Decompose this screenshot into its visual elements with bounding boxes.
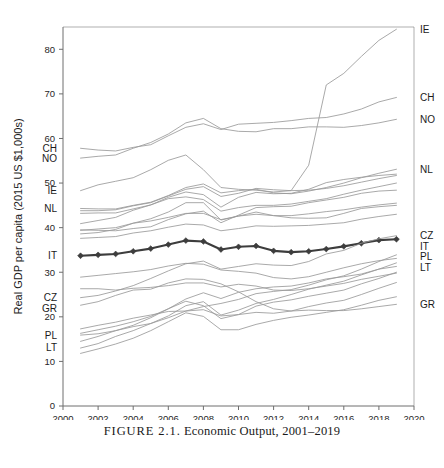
figure-caption: FIGURE 2.1. Economic Output, 2001–2019 [0,424,444,439]
series-marker-it [78,253,84,259]
series-label-right-ch: CH [420,92,434,103]
series-line-ie [81,29,397,192]
x-tick-label: 2002 [88,413,109,420]
x-tick-label: 2010 [228,413,249,420]
series-label-left-gr: GR [42,303,57,314]
y-tick-label: 10 [44,356,55,367]
y-tick-label: 80 [44,44,55,55]
series-label-right-pl: PL [420,251,433,262]
series-marker-it [113,251,119,257]
x-tick-label: 2012 [263,413,284,420]
x-tick-label: 2014 [298,413,319,420]
series-label-right-cz: CZ [420,230,433,241]
series-label-right-gr: GR [420,299,435,310]
series-label-right-nl: NL [420,164,433,175]
series-marker-it [306,248,312,254]
y-tick-label: 40 [44,222,55,233]
series-line-fr [81,214,397,238]
y-tick-label: 30 [44,267,55,278]
x-tick-label: 2006 [158,413,179,420]
series-marker-it [394,236,400,242]
series-marker-it [148,246,154,252]
series-label-right-it: IT [420,241,429,252]
series-marker-it [165,242,171,248]
figure-root: 0102030405060708020002002200420062008201… [0,0,444,468]
series-marker-it [323,246,329,252]
series-label-right-lt: LT [420,262,431,273]
x-tick-label: 2004 [123,413,144,420]
y-tick-label: 70 [44,88,55,99]
y-axis-title: Real GDP per capita (2015 US $1,000s) [12,118,24,314]
series-line-lv [81,297,397,354]
series-marker-it [95,252,101,258]
figure-number: FIGURE 2.1. [104,424,181,438]
series-marker-it [253,243,259,249]
series-line-ch [81,97,397,151]
x-tick-label: 2018 [368,413,389,420]
series-line-gr [81,279,397,311]
series-marker-it [288,249,294,255]
series-label-right-no: NO [420,114,435,125]
series-line-sk [81,266,397,333]
series-marker-it [271,248,277,254]
series-label-left-it: IT [48,250,57,261]
series-label-left-lt: LT [46,342,57,353]
series-label-left-nl: NL [44,203,57,214]
line-chart: 0102030405060708020002002200420062008201… [0,0,444,420]
figure-caption-text: Economic Output, 2001–2019 [184,424,340,438]
series-marker-it [341,243,347,249]
chart-plot-area: 0102030405060708020002002200420062008201… [0,0,444,420]
x-tick-label: 2000 [52,413,73,420]
series-label-left-cz: CZ [44,292,57,303]
series-label-left-no: NO [42,153,57,164]
x-tick-label: 2008 [193,413,214,420]
x-tick-label: 2020 [403,413,424,420]
series-marker-it [130,248,136,254]
series-label-left-ie: IE [48,185,58,196]
series-line-hu [81,282,397,328]
series-marker-it [183,238,189,244]
series-label-right-ie: IE [420,24,430,35]
series-marker-it [236,244,242,250]
series-label-left-pl: PL [45,330,58,341]
y-tick-label: 0 [50,400,55,411]
x-tick-label: 2016 [333,413,354,420]
series-label-left-ch: CH [43,143,57,154]
